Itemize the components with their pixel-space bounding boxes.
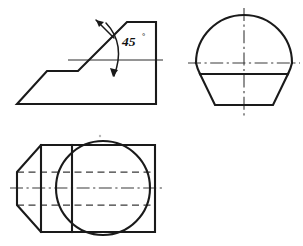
- drawing-canvas: 45 °: [0, 0, 303, 246]
- top-right-right-arc-lower: [288, 63, 292, 74]
- bottom-view: [10, 135, 162, 235]
- top-right-view: [188, 8, 300, 118]
- angle-dimension-degree-symbol: °: [142, 32, 145, 41]
- front-view: 45 °: [17, 20, 163, 104]
- top-right-left-arc-lower: [196, 63, 200, 74]
- technical-drawing-svg: 45 °: [0, 0, 303, 246]
- angle-dimension-label: 45: [121, 34, 136, 49]
- scan-artifact-speck: [99, 135, 101, 137]
